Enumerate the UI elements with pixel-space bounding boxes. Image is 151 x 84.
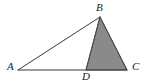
figure-canvas <box>0 0 151 84</box>
vertex-label-d: D <box>82 71 90 82</box>
geometry-figure: A B C D <box>0 0 151 84</box>
vertex-label-c: C <box>132 61 139 72</box>
shaded-triangle-bdc <box>86 17 127 70</box>
vertex-label-a: A <box>7 61 14 72</box>
vertex-label-b: B <box>96 2 103 13</box>
